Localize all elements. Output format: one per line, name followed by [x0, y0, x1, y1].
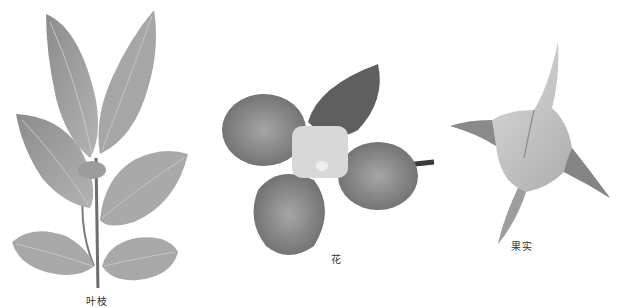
caption-fruit: 果实 — [511, 238, 532, 253]
figure-flower — [218, 60, 438, 260]
figure-leafy-branch — [8, 8, 193, 288]
leafy-branch-illustration — [8, 8, 193, 288]
fruit-illustration — [448, 38, 613, 248]
caption-flower: 花 — [331, 251, 342, 266]
figure-fruit — [448, 38, 613, 248]
truncated-text-line — [30, 0, 310, 2]
flower-illustration — [218, 60, 438, 260]
caption-leafy-branch: 叶枝 — [86, 293, 107, 308]
